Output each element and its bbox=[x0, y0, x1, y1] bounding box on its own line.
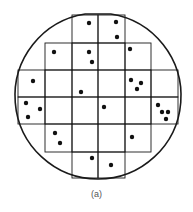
die-cell bbox=[98, 15, 125, 43]
die-cell bbox=[45, 97, 72, 124]
defect-dot bbox=[115, 35, 119, 39]
die-cell bbox=[72, 97, 98, 124]
die-grid bbox=[18, 15, 178, 178]
defect-dot bbox=[109, 163, 113, 167]
defect-dot bbox=[79, 90, 83, 94]
die-cell bbox=[151, 70, 178, 97]
defect-dot bbox=[114, 20, 118, 24]
figure-caption: (a) bbox=[0, 189, 193, 199]
die-cell bbox=[72, 152, 98, 178]
die-cell bbox=[45, 70, 72, 97]
die-cell bbox=[18, 70, 45, 97]
die-cell bbox=[125, 43, 151, 70]
defect-dot bbox=[52, 50, 56, 54]
die-cell bbox=[125, 124, 151, 152]
defect-dot bbox=[90, 156, 94, 160]
defect-dot bbox=[87, 50, 91, 54]
defect-dot bbox=[135, 87, 139, 91]
defect-dot bbox=[166, 110, 170, 114]
defect-dot bbox=[130, 135, 134, 139]
die-cell bbox=[125, 70, 151, 97]
defect-dot bbox=[129, 78, 133, 82]
defect-dot bbox=[156, 103, 160, 107]
defect-dot bbox=[53, 131, 57, 135]
defect-dot bbox=[139, 81, 143, 85]
die-cell bbox=[72, 43, 98, 70]
defect-dot bbox=[102, 105, 106, 109]
defect-dots bbox=[24, 20, 170, 167]
defect-dot bbox=[87, 21, 91, 25]
die-cell bbox=[45, 43, 72, 70]
defect-dot bbox=[31, 79, 35, 83]
die-cell bbox=[45, 124, 72, 152]
die-cell bbox=[98, 124, 125, 152]
defect-dot bbox=[38, 107, 42, 111]
die-cell bbox=[72, 70, 98, 97]
die-cell bbox=[98, 97, 125, 124]
defect-dot bbox=[58, 141, 62, 145]
defect-dot bbox=[90, 60, 94, 64]
defect-dot bbox=[26, 115, 30, 119]
die-cell bbox=[98, 43, 125, 70]
defect-dot bbox=[128, 47, 132, 51]
defect-dot bbox=[160, 110, 164, 114]
wafer-map-diagram bbox=[0, 0, 193, 212]
die-cell bbox=[72, 124, 98, 152]
die-cell bbox=[125, 97, 151, 124]
die-cell bbox=[98, 70, 125, 97]
defect-dot bbox=[24, 101, 28, 105]
defect-dot bbox=[164, 117, 168, 121]
die-cell bbox=[72, 15, 98, 43]
